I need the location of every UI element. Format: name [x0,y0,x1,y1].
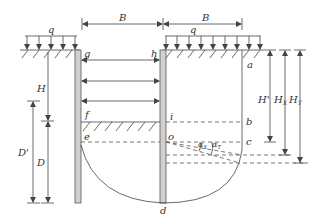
label-d: d [160,205,166,216]
label-o: o [168,131,174,142]
excavation-base [81,122,160,131]
ground-surface-right [163,50,264,58]
label-alphaX: αX [198,140,207,150]
label-f: f [84,109,91,120]
retaining-wall-right [160,50,166,203]
label-HT: HT [288,94,303,106]
label-D: D [36,157,45,168]
label-g: g [84,48,90,59]
excavation-diagram: B B q q [0,0,328,224]
label-a: a [247,59,253,70]
dimension-D-prime [27,101,40,203]
label-q-left: q [48,24,54,35]
struts [82,60,159,101]
ground-surface-left [20,50,80,58]
label-b: b [246,116,252,127]
label-HX: HX [273,94,288,106]
label-alphaT: αT [212,140,221,150]
label-h: h [151,48,157,59]
retaining-wall-left [75,50,81,203]
label-H-prime: H' [257,94,269,105]
label-H: H [36,83,46,94]
label-q-right: q [190,24,196,35]
surcharge-load-left [25,36,77,49]
label-i: i [170,111,173,122]
width-dimension-B [82,18,242,30]
label-c: c [246,136,252,147]
label-D-prime: D' [17,147,29,158]
label-B-right: B [201,12,209,23]
label-B-left: B [118,12,126,23]
surcharge-load-right [165,36,261,49]
dimension-HT [294,50,306,163]
label-e: e [84,131,90,142]
